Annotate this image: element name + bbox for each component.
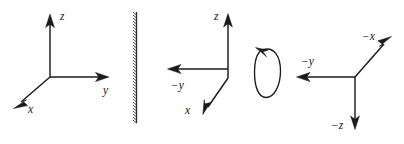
axis-negative-x-rotated-arrowhead: [378, 37, 392, 47]
axis-negative-y-mirrored-label: −y: [171, 79, 185, 92]
axis-negative-z-rotated-label: −z: [331, 119, 344, 131]
panel-rotated-frame: −x −y −z: [297, 30, 392, 131]
axis-x-original-line: [21, 77, 50, 102]
axis-negative-x-rotated-label: −x: [362, 30, 376, 42]
axis-negative-x-rotated-line: [355, 44, 384, 77]
axis-x-mirrored-arrowhead: [203, 100, 211, 115]
axis-negative-y-rotated-label: −y: [301, 55, 315, 68]
axis-negative-z-rotated: −z: [331, 77, 359, 131]
panel-mirrored-frame: z −y x: [168, 10, 233, 116]
axis-negative-x-rotated: −x: [355, 30, 392, 77]
axis-x-original: x: [14, 77, 51, 115]
panel-original-frame: z y x: [14, 10, 110, 115]
axis-z-original-label: z: [59, 10, 65, 22]
axis-x-original-label: x: [27, 103, 34, 115]
axis-z-mirrored: z: [213, 10, 232, 78]
axis-negative-y-rotated: −y: [297, 55, 356, 82]
axis-y-original: y: [50, 72, 109, 96]
axis-x-mirrored: x: [184, 78, 228, 116]
figure-canvas: z y x z: [0, 0, 404, 144]
coordinate-frame-diagram: z y x z: [0, 0, 404, 144]
axis-negative-y-mirrored: −y: [168, 64, 229, 91]
mirror-plane: [133, 12, 137, 123]
axis-z-original: z: [46, 10, 65, 77]
rotation-arrow: [255, 48, 281, 98]
axis-x-original-arrowhead: [14, 100, 28, 109]
rotation-arrow-loop: [255, 49, 281, 98]
axis-x-mirrored-line: [208, 78, 228, 107]
axis-z-mirrored-label: z: [213, 10, 219, 22]
axis-x-mirrored-label: x: [184, 104, 191, 116]
axis-y-original-label: y: [102, 84, 109, 97]
